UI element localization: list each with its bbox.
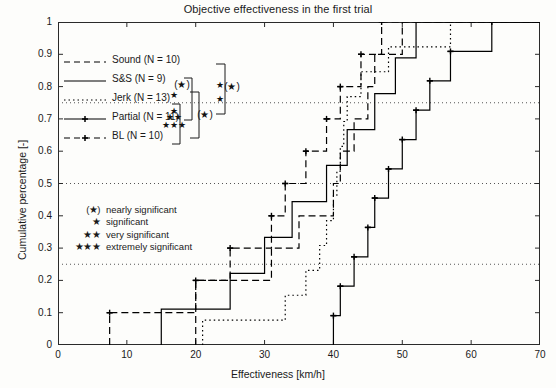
significance-label: significant [100,216,148,227]
legend-swatch [62,111,108,123]
legend-swatch [62,92,108,104]
y-tick-label: 0.9 [22,48,52,59]
y-tick-label: 0.5 [22,178,52,189]
significance-label: very significant [100,229,169,240]
legend-swatch [62,130,108,142]
svg-text:★: ★ [216,80,224,90]
y-tick-label: 0.7 [22,113,52,124]
x-tick-label: 30 [250,349,280,360]
x-tick-label: 70 [525,349,555,360]
legend-label: BL (N = 10) [108,130,163,141]
y-tick-label: 0.8 [22,81,52,92]
svg-text:★: ★ [170,90,178,100]
significance-label: extremely significant [100,241,192,252]
significance-key-row: ★★★extremely significant [60,241,192,254]
significance-symbol: ★★★ [60,241,100,252]
x-tick-label: 40 [318,349,348,360]
chart-title: Objective effectiveness in the first tri… [0,3,556,15]
svg-text:★: ★ [216,94,224,104]
significance-brackets: ★★★★★★★(★)(★)(★)★★ [160,58,280,168]
x-axis-title: Effectiveness [km/h] [0,368,556,380]
y-tick-label: 0.2 [22,274,52,285]
y-tick-label: 0.6 [22,145,52,156]
legend-swatch [62,73,108,85]
x-tick-label: 10 [112,349,142,360]
y-tick-label: 1 [22,16,52,27]
x-tick-label: 60 [456,349,486,360]
svg-text:(★): (★) [174,79,190,90]
svg-text:(★): (★) [197,109,213,120]
y-tick-label: 0.4 [22,210,52,221]
legend-label: S&S (N = 9) [108,73,166,84]
y-tick-label: 0.3 [22,242,52,253]
significance-key-row: (★)nearly significant [60,203,192,216]
x-tick-label: 20 [181,349,211,360]
significance-symbol: (★) [60,204,100,215]
significance-symbol: ★ [60,216,100,227]
y-tick-label: 0.1 [22,307,52,318]
significance-key: (★)nearly significant★significant★★very … [60,203,192,253]
series-partial [330,22,540,345]
significance-symbol: ★★ [60,229,100,240]
svg-text:★★★: ★★★ [162,120,186,130]
figure: Objective effectiveness in the first tri… [0,0,556,388]
legend-swatch [62,54,108,66]
significance-key-row: ★significant [60,216,192,229]
x-tick-label: 50 [387,349,417,360]
svg-text:(★): (★) [224,81,240,92]
significance-key-row: ★★very significant [60,228,192,241]
x-tick-label: 0 [43,349,73,360]
significance-label: nearly significant [100,204,177,215]
